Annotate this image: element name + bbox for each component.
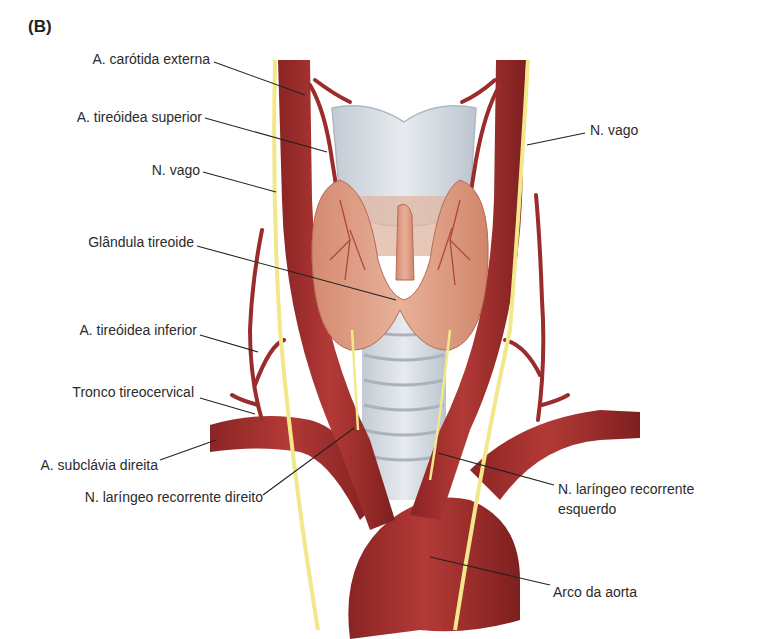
label-laringeo-recorrente-direito: N. laríngeo recorrente direito bbox=[85, 489, 263, 506]
label-tireoidea-superior: A. tireóidea superior bbox=[77, 109, 202, 126]
label-subclavia-direita: A. subclávia direita bbox=[40, 457, 158, 474]
anatomy-figure: (B) A. carótida externa A. tireóidea sup… bbox=[0, 0, 772, 639]
label-tronco-tireocervical: Tronco tireocervical bbox=[72, 384, 194, 401]
label-glandula-tireoide: Glândula tireoide bbox=[88, 234, 194, 251]
label-laringeo-recorrente-esquerdo-line1: N. laríngeo recorrente bbox=[558, 481, 694, 498]
label-carotida-externa: A. carótida externa bbox=[92, 51, 210, 68]
label-vago-direito: N. vago bbox=[152, 162, 200, 179]
label-vago-esquerdo: N. vago bbox=[590, 122, 638, 139]
label-arco-aorta: Arco da aorta bbox=[553, 584, 637, 601]
label-laringeo-recorrente-esquerdo-line2: esquerdo bbox=[558, 501, 616, 518]
panel-letter: (B) bbox=[28, 17, 52, 37]
label-tireoidea-inferior: A. tireóidea inferior bbox=[79, 322, 197, 339]
neck-vessels-illustration bbox=[0, 0, 772, 639]
